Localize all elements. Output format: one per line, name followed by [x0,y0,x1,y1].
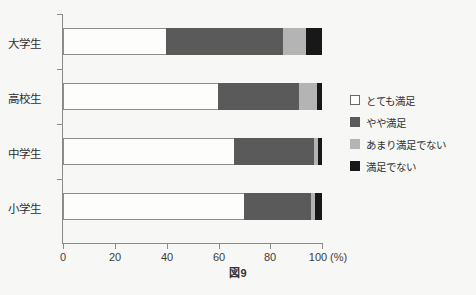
x-tick-20 [115,244,116,249]
bar-segment-very-satisfied [63,83,219,110]
bar-segment-very-satisfied [63,138,235,165]
bar-segment-very-satisfied [63,193,245,220]
x-tick-label-60: 60 [213,251,225,263]
y-category-label-koukousei: 高校生 [8,90,56,106]
y-tick-2 [57,124,62,125]
light-gray-square-icon [350,139,360,149]
legend-item-not-very-satisfied: あまり満足でない [350,135,446,153]
bar-segment-not-satisfied [315,193,322,220]
x-tick-label-0: 0 [60,251,66,263]
x-tick-label-20: 20 [109,251,121,263]
black-square-icon [350,161,360,171]
x-tick-label-40: 40 [161,251,173,263]
bar-segment-somewhat-satisfied [244,193,311,220]
satisfaction-stacked-bar-chart: 0 20 40 60 80 100 (%) 大学生 高校生 中学生 小学生 [0,0,476,295]
legend-item-not-satisfied: 満足でない [350,157,446,175]
legend: とても満足 やや満足 あまり満足でない 満足でない [350,91,446,179]
y-category-label-daigakusei: 大学生 [8,35,56,51]
x-axis-unit-label: (%) [330,251,347,263]
y-category-label-shougakusei: 小学生 [8,200,56,216]
dark-gray-square-icon [350,117,360,127]
bar-segment-somewhat-satisfied [234,138,314,165]
legend-label-not-satisfied: 満足でない [366,159,416,174]
legend-item-somewhat-satisfied: やや満足 [350,113,446,131]
x-tick-0 [63,244,64,249]
x-tick-label-100: 100 [309,251,327,263]
legend-label-somewhat-satisfied: やや満足 [366,115,406,130]
figure-caption: 図9 [0,264,476,280]
y-tick-top [57,14,62,15]
white-square-icon [350,95,360,105]
bar-segment-somewhat-satisfied [218,83,299,110]
bar-segment-not-very-satisfied [299,83,317,110]
bar-segment-very-satisfied [63,28,167,55]
x-tick-60 [219,244,220,249]
bar-segment-not-very-satisfied [283,28,306,55]
legend-label-not-very-satisfied: あまり満足でない [366,137,446,152]
bar-segment-not-satisfied [317,83,322,110]
x-tick-100 [322,244,323,249]
bar-segment-not-satisfied [318,138,322,165]
bar-segment-not-satisfied [306,28,322,55]
y-tick-3 [57,179,62,180]
y-category-label-chugakusei: 中学生 [8,145,56,161]
x-tick-40 [167,244,168,249]
x-axis-line [62,243,323,244]
y-tick-1 [57,69,62,70]
x-tick-80 [270,244,271,249]
bar-segment-somewhat-satisfied [166,28,283,55]
x-tick-label-80: 80 [264,251,276,263]
legend-label-very-satisfied: とても満足 [366,93,415,108]
legend-item-very-satisfied: とても満足 [350,91,446,109]
